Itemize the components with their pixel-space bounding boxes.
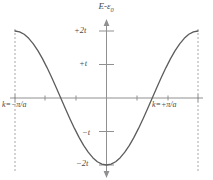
y-tick-label-minus-2t: −2t <box>76 159 88 168</box>
y-axis-title: E-ε0 <box>98 2 113 13</box>
y-axis-arrow-up <box>104 19 110 26</box>
y-tick-label-plus-2t: +2t <box>74 26 86 35</box>
x-tick-label-right-zone-edge: k=+π/a <box>152 101 177 109</box>
y-tick-label-plus-t: +t <box>79 59 87 68</box>
x-tick-label-left-zone-edge: k=−π/a <box>2 101 27 109</box>
plot-canvas <box>0 0 213 180</box>
band-structure-figure: E-ε0 +2t +t −t −2t k=−π/a k=+π/a <box>0 0 213 180</box>
y-axis-title-subscript: 0 <box>110 6 113 13</box>
y-axis-arrow-down <box>104 171 110 178</box>
y-tick-label-minus-t: −t <box>82 128 90 137</box>
